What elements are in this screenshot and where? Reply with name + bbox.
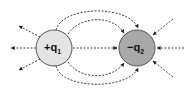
field-line-diagram (0, 0, 188, 93)
field-line-arc-top-outer (56, 11, 138, 30)
field-line-lower-right (153, 61, 173, 77)
charge-label-q2: −q2 (127, 42, 144, 55)
field-line-lower-left (19, 59, 40, 70)
field-line-upper-left (19, 26, 40, 37)
field-line-arc-top-inner (68, 20, 124, 34)
field-line-arc-bottom-inner (68, 62, 124, 76)
charge-label-q1: +q1 (44, 42, 61, 55)
field-line-upper-right (153, 19, 173, 35)
